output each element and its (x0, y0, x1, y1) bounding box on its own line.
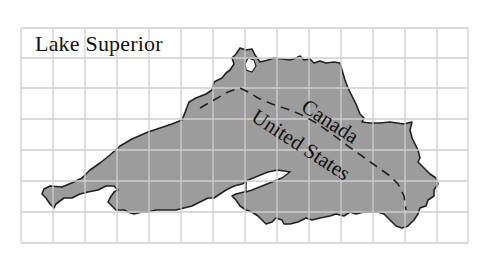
map-title: Lake Superior (35, 31, 163, 57)
lake-shape (42, 48, 438, 228)
